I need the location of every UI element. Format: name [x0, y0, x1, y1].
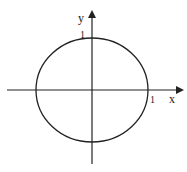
x-tick-label: 1: [150, 94, 155, 105]
y-axis-label: y: [78, 11, 84, 25]
y-tick-label: 1: [80, 29, 85, 40]
x-axis-label: x: [169, 92, 175, 106]
diagram-canvas: y 1 1 x: [0, 0, 187, 172]
